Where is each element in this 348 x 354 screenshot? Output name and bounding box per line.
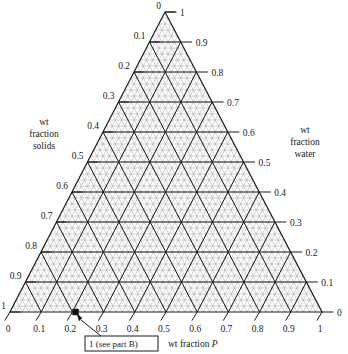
left-axis-title-line3: solids [33, 141, 55, 151]
right-tick-label: 0 [337, 308, 342, 318]
left-tick-label: 1 [1, 301, 6, 311]
right-axis-title-line3: water [294, 149, 316, 159]
callout-box[interactable]: 1 (see part B) [85, 336, 158, 351]
left-tick-label: 0 [156, 1, 161, 11]
right-tick-label: 0.2 [306, 248, 318, 258]
bottom-tick-label: 0.1 [33, 324, 45, 334]
right-tick-label: 0.1 [321, 278, 333, 288]
right-tick-label: 0.9 [196, 38, 208, 48]
right-axis-title-line1: wt [300, 125, 310, 135]
left-tick-label: 0.9 [10, 271, 22, 281]
left-tick-label: 0.6 [56, 181, 68, 191]
left-tick-label: 0.3 [103, 91, 115, 101]
right-tick-label: 0.5 [259, 158, 271, 168]
right-tick-label: 0.3 [290, 218, 302, 228]
left-tick-label: 0.2 [118, 61, 130, 71]
bottom-tick-label: 0 [6, 324, 11, 334]
left-tick-label: 0.4 [87, 121, 99, 131]
bottom-tick-label: 0.4 [127, 324, 139, 334]
ternary-diagram: 00.10.20.30.40.50.60.70.80.9100.10.20.30… [0, 0, 348, 354]
left-tick-label: 0.7 [41, 211, 53, 221]
bottom-tick-label: 0.8 [252, 324, 264, 334]
bottom-tick-label: 0.6 [189, 324, 201, 334]
left-tick-label: 0.8 [25, 241, 37, 251]
bottom-tick-label: 0.9 [283, 324, 295, 334]
right-tick-label: 0.4 [274, 188, 286, 198]
right-tick-label: 0.8 [211, 68, 223, 78]
callout-label: 1 (see part B) [89, 339, 138, 349]
bottom-tick-label: 1 [318, 324, 323, 334]
right-axis-title-line2: fraction [290, 137, 320, 147]
left-tick-label: 0.5 [72, 151, 84, 161]
left-tick-label: 0.1 [134, 31, 146, 41]
bottom-tick-label: 0.5 [158, 324, 170, 334]
bottom-tick-label: 0.7 [220, 324, 232, 334]
right-tick-label: 0.6 [243, 128, 255, 138]
right-tick-label: 0.7 [227, 98, 239, 108]
left-axis-title-line1: wt [39, 117, 49, 127]
ternary-plot-svg: 00.10.20.30.40.50.60.70.80.9100.10.20.30… [0, 0, 348, 354]
bottom-axis-title: wt fraction P [168, 339, 218, 349]
left-axis-title-line2: fraction [29, 129, 59, 139]
right-tick-label: 1 [180, 8, 185, 18]
bottom-tick-label: 0.3 [96, 324, 108, 334]
bottom-tick-label: 0.2 [64, 324, 76, 334]
